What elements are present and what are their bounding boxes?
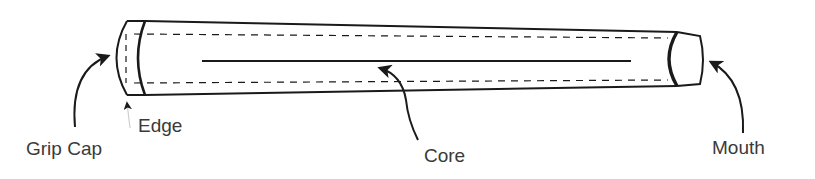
core-arrow bbox=[380, 68, 418, 140]
tube-diagram bbox=[0, 0, 815, 179]
mouth-outline bbox=[677, 32, 703, 86]
body-bottom-line bbox=[145, 86, 677, 95]
tube-body bbox=[117, 21, 704, 95]
grip-cap-arrow bbox=[74, 56, 108, 127]
label-grip-cap: Grip Cap bbox=[26, 139, 102, 158]
label-mouth: Mouth bbox=[712, 138, 765, 157]
edge-arrow bbox=[127, 103, 130, 128]
inner-wall-top bbox=[134, 34, 668, 38]
label-core: Core bbox=[424, 146, 465, 165]
mouth-rim bbox=[669, 32, 677, 86]
label-edge: Edge bbox=[138, 116, 182, 135]
body-top-line bbox=[145, 21, 677, 32]
mouth-arrow bbox=[711, 62, 743, 133]
inner-wall-bottom bbox=[134, 80, 668, 83]
cap-boundary bbox=[138, 21, 145, 95]
